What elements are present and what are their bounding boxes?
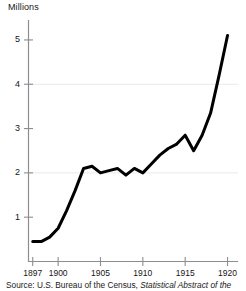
y-axis-tick-label: 1 — [6, 213, 20, 222]
line-chart-plot — [0, 0, 246, 291]
source-label: Source: U.S. Bureau of the Census, — [6, 280, 138, 290]
data-series-line — [33, 36, 228, 242]
source-publication-title: Statistical Abstract of the — [138, 280, 231, 290]
x-axis-tick-label: 1915 — [170, 269, 200, 278]
gridlines — [29, 84, 239, 173]
x-axis-tick-label: 1905 — [85, 269, 115, 278]
y-axis-tick-label: 3 — [6, 124, 20, 133]
x-axis-tick-label: 1920 — [213, 269, 243, 278]
source-note: Source: U.S. Bureau of the Census, Stati… — [6, 280, 246, 290]
y-axis-tick-label: 4 — [6, 80, 20, 89]
x-axis-tick-label: 1900 — [43, 269, 73, 278]
x-axis-tick-label: 1910 — [128, 269, 158, 278]
y-axis-tick-label: 5 — [6, 35, 20, 44]
y-axis-tick-label: 2 — [6, 168, 20, 177]
chart-figure: Millions 12345 189719001905191019151920 … — [0, 0, 246, 291]
